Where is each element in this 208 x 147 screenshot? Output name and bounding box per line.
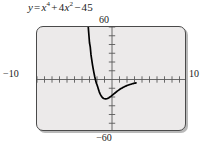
plot-frame [36,26,186,131]
x-axis-max-label: 10 [189,68,199,79]
equation-caption: y=x4+4x2−45 [28,1,93,13]
equation-equals: = [33,1,41,13]
graph-canvas [37,27,186,131]
y-axis-min-label: −60 [0,132,208,143]
y-axis-max-label: 60 [0,14,208,25]
graph-figure: y=x4+4x2−45 60 −60 −10 10 [0,0,208,147]
plot-viewport [36,26,186,131]
x-axis-min-label: −10 [3,68,19,79]
equation-plus-operator: + [50,1,58,13]
equation-constant-term: 45 [82,1,93,13]
equation-minus-operator: − [73,1,81,13]
